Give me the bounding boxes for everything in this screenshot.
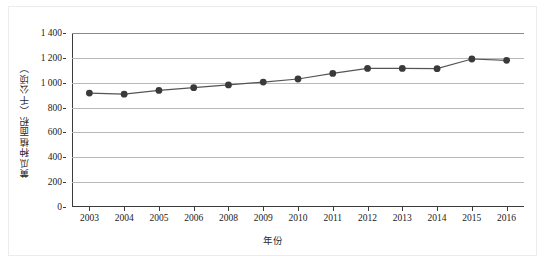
data-point-marker: 2013: 1115 <box>399 65 406 72</box>
data-point-marker: 2004: 908 <box>121 91 128 98</box>
x-tick-label: 2005 <box>149 213 168 223</box>
x-tick-mark <box>402 207 403 211</box>
plot-area: 2003: 9172004: 9082005: 9382006: 9602008… <box>72 33 524 207</box>
data-point-marker: 2005: 938 <box>156 87 163 94</box>
y-tick-mark <box>63 207 66 208</box>
x-tick-label: 2008 <box>219 213 238 223</box>
data-point-marker: 2003: 917 <box>86 90 93 97</box>
x-tick-label: 2013 <box>393 213 412 223</box>
x-tick-mark <box>159 207 160 211</box>
data-series-line: 2003: 9172004: 9082005: 9382006: 9602008… <box>72 33 524 207</box>
x-axis-title: 年份 <box>0 233 546 247</box>
data-point-marker: 2012: 1115 <box>364 65 371 72</box>
data-point-marker: 2015: 1191 <box>468 56 475 63</box>
y-tick-mark <box>63 132 66 133</box>
data-point-marker: 2010: 1030 <box>295 76 302 83</box>
x-tick-label: 2012 <box>358 213 377 223</box>
data-point-marker: 2014: 1113 <box>434 65 441 72</box>
y-tick-mark <box>63 108 66 109</box>
x-tick-label: 2010 <box>289 213 308 223</box>
x-tick-mark <box>437 207 438 211</box>
data-point-marker: 2011: 1075 <box>329 70 336 77</box>
chart-figure: 黄瓜种植面积（千公顷） 02004006008001 0001 2001 400… <box>0 0 546 267</box>
x-tick-mark <box>507 207 508 211</box>
y-tick-label: 200 <box>48 177 62 187</box>
x-tick-mark <box>124 207 125 211</box>
x-tick-mark <box>333 207 334 211</box>
x-tick-mark <box>228 207 229 211</box>
x-tick-mark <box>368 207 369 211</box>
x-tick-mark <box>298 207 299 211</box>
x-tick-mark <box>194 207 195 211</box>
y-axis-tick-labels: 02004006008001 0001 2001 400 <box>0 33 66 207</box>
x-tick-label: 2004 <box>115 213 134 223</box>
x-tick-label: 2006 <box>184 213 203 223</box>
x-tick-label: 2016 <box>497 213 516 223</box>
data-point-marker: 2009: 1005 <box>260 79 267 86</box>
x-tick-label: 2003 <box>80 213 99 223</box>
y-tick-mark <box>63 157 66 158</box>
data-point-marker: 2008: 982 <box>225 82 232 89</box>
y-tick-mark <box>63 182 66 183</box>
x-tick-label: 2014 <box>428 213 447 223</box>
x-tick-mark <box>89 207 90 211</box>
x-tick-label: 2011 <box>323 213 342 223</box>
y-tick-label: 600 <box>48 127 62 137</box>
x-tick-mark <box>472 207 473 211</box>
y-tick-label: 1 200 <box>41 53 62 63</box>
data-point-marker: 2016: 1180 <box>503 57 510 64</box>
y-tick-label: 400 <box>48 152 62 162</box>
x-tick-label: 2015 <box>462 213 481 223</box>
y-tick-label: 1 000 <box>41 78 62 88</box>
x-tick-label: 2009 <box>254 213 273 223</box>
y-tick-label: 800 <box>48 103 62 113</box>
data-point-marker: 2006: 960 <box>190 84 197 91</box>
y-tick-label: 0 <box>57 202 62 212</box>
y-tick-mark <box>63 83 66 84</box>
y-tick-mark <box>63 58 66 59</box>
x-tick-mark <box>263 207 264 211</box>
y-tick-mark <box>63 33 66 34</box>
y-tick-label: 1 400 <box>41 28 62 38</box>
